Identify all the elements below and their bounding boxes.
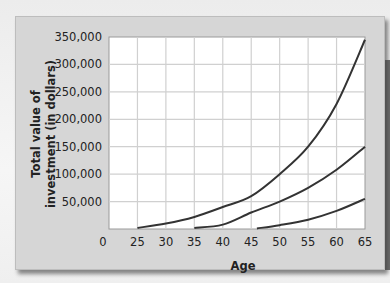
y-tick-label: 300,000 <box>54 57 102 71</box>
y-axis-label-line1: Total value of <box>29 89 43 178</box>
x-tick-label: 60 <box>329 235 344 249</box>
y-tick-label: 250,000 <box>54 85 102 99</box>
y-axis-label-line2: investment (in dollars) <box>44 60 58 208</box>
x-tick-label: 0 <box>99 235 106 249</box>
x-axis-ticks: 0253035404550556065 <box>99 235 372 249</box>
y-tick-label: 200,000 <box>54 112 102 126</box>
x-tick-label: 35 <box>187 235 202 249</box>
y-axis-ticks: 50,000100,000150,000200,000250,000300,00… <box>54 30 102 209</box>
x-axis-label: Age <box>231 259 256 273</box>
x-tick-label: 50 <box>272 235 287 249</box>
x-tick-label: 30 <box>159 235 174 249</box>
x-tick-label: 65 <box>358 235 373 249</box>
y-tick-label: 50,000 <box>62 195 102 209</box>
y-tick-label: 350,000 <box>54 30 102 44</box>
x-tick-label: 25 <box>130 235 145 249</box>
line-chart: 50,000100,000150,000200,000250,000300,00… <box>0 0 390 283</box>
y-tick-label: 100,000 <box>54 167 102 181</box>
x-tick-label: 45 <box>244 235 259 249</box>
x-tick-label: 55 <box>301 235 316 249</box>
x-tick-label: 40 <box>215 235 230 249</box>
plot-area <box>109 37 365 229</box>
y-tick-label: 150,000 <box>54 140 102 154</box>
